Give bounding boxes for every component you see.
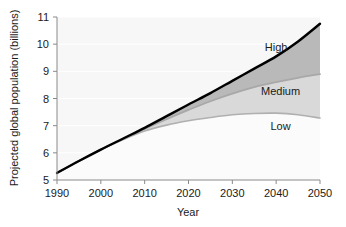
y-tick-label: 5 xyxy=(43,174,49,186)
population-projection-chart: 567891011 1990200020102020203020402050 H… xyxy=(0,0,346,227)
x-tick-label: 2000 xyxy=(89,187,113,199)
chart-canvas: 567891011 1990200020102020203020402050 H… xyxy=(0,0,346,227)
series-label-high: High xyxy=(265,41,288,53)
y-tick-label: 6 xyxy=(43,147,49,159)
y-axis-ticks xyxy=(53,17,57,180)
y-tick-label: 9 xyxy=(43,65,49,77)
y-tick-label: 7 xyxy=(43,120,49,132)
x-axis-tick-labels: 1990200020102020203020402050 xyxy=(45,187,332,199)
y-axis-title: Projected global population (billions) xyxy=(8,10,20,187)
x-tick-label: 2050 xyxy=(308,187,332,199)
x-axis-ticks xyxy=(57,180,320,184)
y-tick-label: 10 xyxy=(37,38,49,50)
x-axis-title: Year xyxy=(177,206,200,218)
y-axis-tick-labels: 567891011 xyxy=(37,11,49,186)
x-tick-label: 1990 xyxy=(45,187,69,199)
x-tick-label: 2030 xyxy=(220,187,244,199)
series-label-low: Low xyxy=(270,120,290,132)
series-label-medium: Medium xyxy=(261,85,300,97)
y-tick-label: 8 xyxy=(43,93,49,105)
y-tick-label: 11 xyxy=(38,11,49,23)
x-tick-label: 2020 xyxy=(176,187,200,199)
x-tick-label: 2010 xyxy=(132,187,156,199)
x-tick-label: 2040 xyxy=(264,187,288,199)
